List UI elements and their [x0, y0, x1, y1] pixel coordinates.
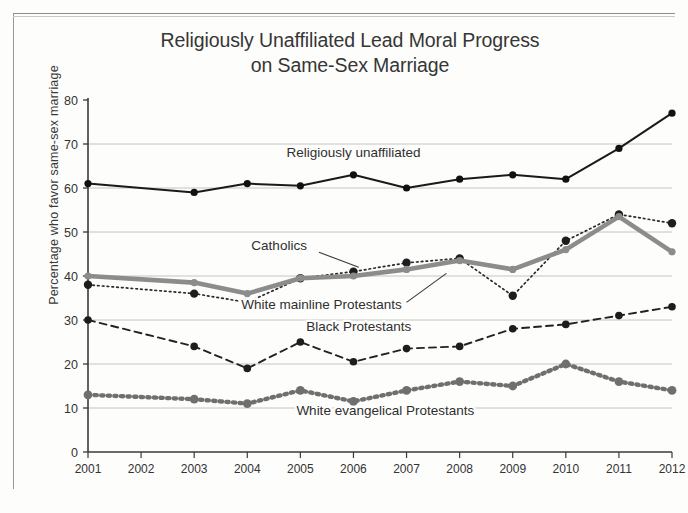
y-tick-label: 70: [64, 138, 78, 152]
data-point: [561, 360, 570, 369]
x-tick-label: 2001: [75, 462, 102, 476]
data-point: [668, 386, 677, 395]
data-point: [509, 292, 517, 300]
x-tick-label: 2006: [340, 462, 367, 476]
data-point: [509, 325, 517, 333]
data-point: [615, 377, 624, 386]
series-line: [88, 217, 672, 294]
data-point: [562, 176, 569, 183]
x-tick-label: 2007: [393, 462, 420, 476]
series-white-mainline-protestants: [84, 213, 675, 297]
y-tick-label: 50: [64, 226, 78, 240]
data-point: [403, 345, 411, 353]
y-tick-label: 40: [64, 270, 78, 284]
chart-plot-area: 01020304050607080 2001200220032004200520…: [0, 0, 688, 513]
data-point: [562, 237, 570, 245]
data-point: [455, 377, 464, 386]
data-point: [402, 259, 410, 267]
data-point: [190, 395, 199, 404]
data-point: [509, 266, 516, 273]
data-point: [508, 382, 517, 391]
data-point: [297, 182, 304, 189]
data-point: [190, 289, 198, 297]
y-tick-label: 30: [64, 314, 78, 328]
data-point: [243, 399, 252, 408]
x-tick-label: 2003: [181, 462, 208, 476]
series-line: [88, 307, 672, 369]
data-point: [84, 180, 91, 187]
x-tick-label: 2004: [234, 462, 261, 476]
series-label: Catholics: [251, 238, 307, 253]
data-point: [456, 257, 463, 264]
data-point: [297, 338, 305, 346]
data-point: [668, 303, 676, 311]
data-point: [191, 279, 198, 286]
data-point: [403, 266, 410, 273]
series-line: [88, 214, 672, 302]
series-label: White evangelical Protestants: [296, 403, 474, 418]
data-point: [350, 358, 358, 366]
x-tick-label: 2005: [287, 462, 314, 476]
x-tick-label: 2012: [659, 462, 686, 476]
data-point: [615, 213, 622, 220]
series-label: White mainline Protestants: [241, 297, 402, 312]
data-point: [244, 180, 251, 187]
data-point: [615, 145, 622, 152]
x-tick-label: 2010: [552, 462, 579, 476]
x-tick-group: 2001200220032004200520062007200820092010…: [75, 452, 686, 476]
y-tick-label: 10: [64, 402, 78, 416]
x-tick-label: 2011: [606, 462, 632, 476]
data-point: [84, 281, 92, 289]
series-label: Religiously unaffiliated: [286, 145, 420, 160]
data-point: [297, 275, 304, 282]
y-tick-label: 0: [71, 446, 78, 460]
leader-line-white-mainline-protestants: [407, 273, 447, 302]
data-point: [350, 272, 357, 279]
series-annotations-group: Religiously unaffiliatedReligiously unaf…: [241, 145, 474, 417]
data-point: [562, 246, 569, 253]
data-point: [668, 248, 675, 255]
data-point: [350, 171, 357, 178]
series-white-evangelical-protestants: [84, 360, 677, 408]
data-point: [84, 316, 92, 324]
y-tick-label: 20: [64, 358, 78, 372]
data-point: [84, 390, 93, 399]
data-point: [562, 321, 570, 329]
chart-figure: Religiously Unaffiliated Lead Moral Prog…: [0, 0, 688, 513]
data-point: [191, 189, 198, 196]
x-tick-label: 2002: [128, 462, 155, 476]
leader-line-catholics: [319, 252, 359, 267]
x-tick-label: 2009: [499, 462, 526, 476]
data-point: [402, 386, 411, 395]
y-tick-label: 80: [64, 94, 78, 108]
data-point: [84, 272, 91, 279]
data-point: [668, 110, 675, 117]
data-point: [456, 343, 464, 351]
y-tick-group: 01020304050607080: [64, 94, 88, 460]
data-point: [190, 343, 198, 351]
series-black-protestants: [84, 303, 676, 372]
x-tick-label: 2008: [446, 462, 473, 476]
series-line: [88, 364, 672, 404]
data-point: [243, 365, 251, 373]
series-label: Black Protestants: [306, 319, 411, 334]
y-tick-label: 60: [64, 182, 78, 196]
data-point: [668, 219, 676, 227]
data-point: [296, 386, 305, 395]
data-point: [509, 171, 516, 178]
data-point: [403, 184, 410, 191]
data-point: [456, 176, 463, 183]
series-catholics: [84, 210, 676, 306]
data-point: [615, 312, 623, 320]
gridlines-group: [88, 144, 672, 408]
